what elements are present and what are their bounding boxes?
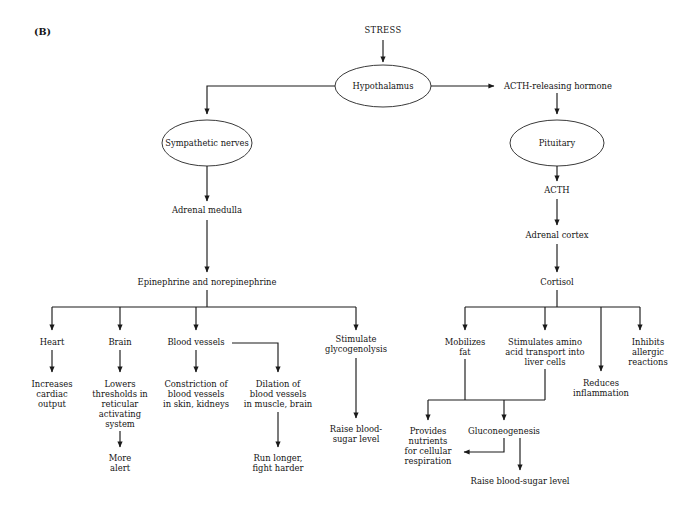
- node-provides-nutrients-line4: respiration: [405, 456, 452, 466]
- figure-panel-b: (B) STRESS Hypothalamus ACTH-releasing h…: [0, 0, 700, 506]
- node-brain: Brain: [108, 337, 132, 347]
- node-hypothalamus: Hypothalamus: [353, 81, 414, 91]
- node-epinephrine: Epinephrine and norepinephrine: [138, 277, 277, 287]
- node-dilation-line1: Dilation of: [256, 379, 301, 389]
- node-dilation-line3: in muscle, brain: [244, 399, 313, 409]
- node-reduces-inflammation-line1: Reduces: [583, 378, 619, 388]
- node-raise-blood-sugar-left-line2: sugar level: [333, 434, 380, 444]
- node-dilation-line2: blood vessels: [250, 389, 306, 399]
- node-mobilizes-fat-line2: fat: [459, 347, 471, 357]
- node-lowers-thresholds-line3: reticular: [102, 399, 139, 409]
- node-acth-releasing-hormone: ACTH-releasing hormone: [503, 81, 612, 91]
- node-inhibits-allergic-line3: reactions: [628, 357, 667, 367]
- node-provides-nutrients-line1: Provides: [410, 426, 447, 436]
- node-inhibits-allergic-line2: allergic: [632, 347, 664, 357]
- node-raise-blood-sugar-right: Raise blood-sugar level: [470, 476, 569, 486]
- node-cortisol: Cortisol: [540, 277, 574, 287]
- node-more-alert-line1: More: [109, 453, 132, 463]
- node-mobilizes-fat-line1: Mobilizes: [445, 337, 486, 347]
- node-lowers-thresholds-line5: system: [105, 419, 135, 429]
- node-provides-nutrients-line2: nutrients: [409, 436, 448, 446]
- node-lowers-thresholds-line1: Lowers: [104, 379, 135, 389]
- node-blood-vessels: Blood vessels: [167, 337, 224, 347]
- node-lowers-thresholds-line2: thresholds in: [92, 389, 148, 399]
- node-increases-cardiac-line3: output: [38, 399, 67, 409]
- node-adrenal-cortex: Adrenal cortex: [525, 230, 589, 240]
- node-stimulates-amino-line3: liver cells: [524, 357, 565, 367]
- node-gluconeogenesis: Gluconeogenesis: [468, 426, 540, 436]
- node-lowers-thresholds-line4: activating: [99, 409, 142, 419]
- node-constriction-line1: Constriction of: [164, 379, 228, 389]
- node-stress: STRESS: [364, 25, 401, 35]
- node-increases-cardiac-line1: Increases: [32, 379, 73, 389]
- panel-label: (B): [34, 26, 51, 37]
- node-inhibits-allergic-line1: Inhibits: [632, 337, 664, 347]
- node-sympathetic-nerves: Sympathetic nerves: [165, 138, 248, 148]
- node-stimulates-amino-line1: Stimulates amino: [508, 337, 582, 347]
- arrow-hypothalamus-to-sympathetic: [207, 86, 335, 114]
- flowchart-canvas: (B) STRESS Hypothalamus ACTH-releasing h…: [0, 0, 700, 506]
- arrow-blood-vessels-to-dilation: [232, 343, 278, 372]
- node-provides-nutrients-line3: for cellular: [405, 446, 452, 456]
- node-more-alert-line2: alert: [110, 463, 131, 473]
- node-stimulate-glycogenolysis-line2: glycogenolysis: [325, 344, 387, 354]
- node-acth: ACTH: [543, 185, 569, 195]
- node-run-longer-line2: fight harder: [252, 463, 303, 473]
- node-heart: Heart: [40, 337, 65, 347]
- node-reduces-inflammation-line2: inflammation: [573, 388, 630, 398]
- node-run-longer-line1: Run longer,: [254, 453, 303, 463]
- node-increases-cardiac-line2: cardiac: [36, 389, 68, 399]
- node-stimulate-glycogenolysis-line1: Stimulate: [335, 334, 376, 344]
- node-raise-blood-sugar-left-line1: Raise blood-: [330, 424, 383, 434]
- arrow-gluconeogenesis-to-provides-nutrients: [464, 438, 504, 452]
- node-constriction-line3: in skin, kidneys: [163, 399, 229, 409]
- node-adrenal-medulla: Adrenal medulla: [171, 205, 242, 215]
- node-constriction-line2: blood vessels: [168, 389, 224, 399]
- node-pituitary: Pituitary: [539, 138, 576, 148]
- node-stimulates-amino-line2: acid transport into: [505, 347, 584, 357]
